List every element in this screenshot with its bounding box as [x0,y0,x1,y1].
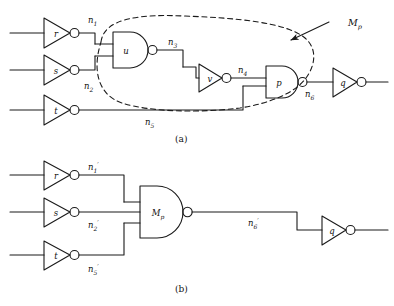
inverter-s-b-bubble [70,208,79,217]
inverter-v-bubble [222,74,231,83]
inverter-s-b[interactable] [10,198,140,227]
inverter-q-b-label: q [329,226,335,236]
inverter-s-label: s [54,66,59,76]
net-n4-label: n4 [238,65,247,77]
inverter-q-bubble [357,78,366,87]
wire-n3 [157,50,183,67]
nand-u-label: u [123,46,128,56]
inverter-t-label: t [54,106,58,116]
inverter-r-b-label: r [54,171,59,181]
nand-u-bubble [148,46,157,55]
wire-n2 [79,56,95,70]
inverter-s-b-label: s [54,208,59,218]
inverter-v-label: v [208,74,213,84]
circuit-svg: r s t u v p [0,0,394,306]
net-n1-prime-label: n1′ [88,161,99,174]
panel-b-caption: (b) [175,284,188,294]
inverter-t-bubble [70,106,79,115]
nand-mp-label: Mp [151,208,165,221]
wire-n1-prime [79,175,124,202]
net-n2-label: n2 [84,81,93,93]
net-n6-label: n6 [305,89,314,101]
inverter-q-label: q [340,78,346,88]
inverter-s-a[interactable] [10,55,95,85]
inverter-r-label: r [54,29,59,39]
net-n2-prime-label: n2′ [88,219,99,232]
nand-u-body [113,32,148,68]
inverter-q-b-bubble [346,226,355,235]
inverter-s-bubble [70,66,79,75]
nand-p-label: p [276,78,282,88]
inverter-t-a[interactable] [10,86,243,125]
inverter-t-b-bubble [70,251,79,260]
inverter-t-b-label: t [54,251,58,261]
net-n5-prime-label: n5′ [88,263,99,276]
inverter-r-b[interactable] [10,161,124,202]
inverter-r-b-bubble [70,171,79,180]
net-n3-label: n3 [168,37,177,49]
wire-n5 [79,86,243,110]
wire-v-in [183,67,199,78]
panel-a-caption: (a) [175,134,187,144]
net-n1-label: n1 [88,15,97,27]
macro-label-mp: Mp [347,17,363,31]
inverter-t-b[interactable] [10,223,124,270]
wire-n1 [79,33,95,44]
net-n6-prime-label: n6′ [248,217,259,230]
inverter-r-bubble [70,29,79,38]
inverter-r-a[interactable] [10,18,95,48]
nand-p-body [266,66,298,98]
nand-mp-bubble [183,207,192,216]
macro-boundary-mp [97,16,314,111]
net-n5-label: n5 [145,117,154,129]
inverter-v-a[interactable] [183,64,266,92]
macro-pointer-arrow [291,22,329,40]
wire-n5-prime [79,223,124,255]
circuit-figure: r s t u v p [0,0,394,306]
